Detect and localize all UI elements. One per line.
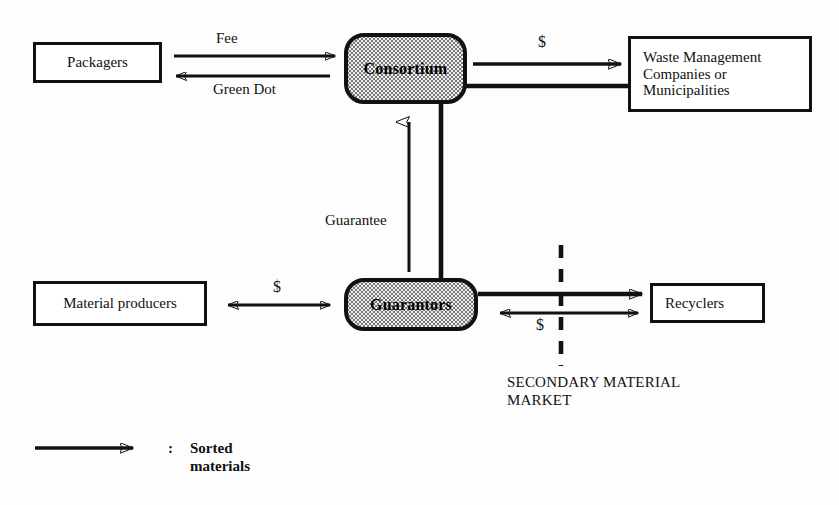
edge-label-guarantee: Guarantee (325, 212, 387, 229)
node-packagers-label: Packagers (36, 54, 159, 71)
legend-label: Sorted materials (190, 439, 350, 476)
diagram-canvas: Packagers Consortium Waste Management Co… (0, 0, 839, 505)
node-waste-management-label: Waste Management Companies or Municipali… (631, 49, 761, 99)
legend-separator: : (168, 439, 173, 457)
node-consortium-label: Consortium (364, 60, 448, 78)
node-packagers[interactable]: Packagers (33, 42, 162, 83)
node-material-producers-label: Material producers (36, 295, 204, 312)
node-guarantors-label: Guarantors (370, 296, 452, 314)
node-waste-management[interactable]: Waste Management Companies or Municipali… (628, 36, 812, 112)
node-material-producers[interactable]: Material producers (33, 281, 207, 326)
secondary-material-market-label: SECONDARY MATERIAL MARKET (507, 374, 727, 409)
node-consortium[interactable]: Consortium (344, 33, 467, 104)
edge-label-green-dot: Green Dot (213, 81, 276, 98)
node-recyclers-label: Recyclers (653, 295, 724, 312)
edge-label-fee: Fee (216, 30, 238, 47)
node-recyclers[interactable]: Recyclers (650, 283, 765, 323)
edge-label-material-producers-dollar: $ (273, 278, 281, 296)
edge-sorted-materials-waste-to-guarantors (441, 86, 628, 287)
edge-label-secondary-market-dollar: $ (536, 316, 544, 334)
node-guarantors[interactable]: Guarantors (344, 278, 478, 331)
edge-label-consortium-waste-dollar: $ (538, 33, 546, 51)
